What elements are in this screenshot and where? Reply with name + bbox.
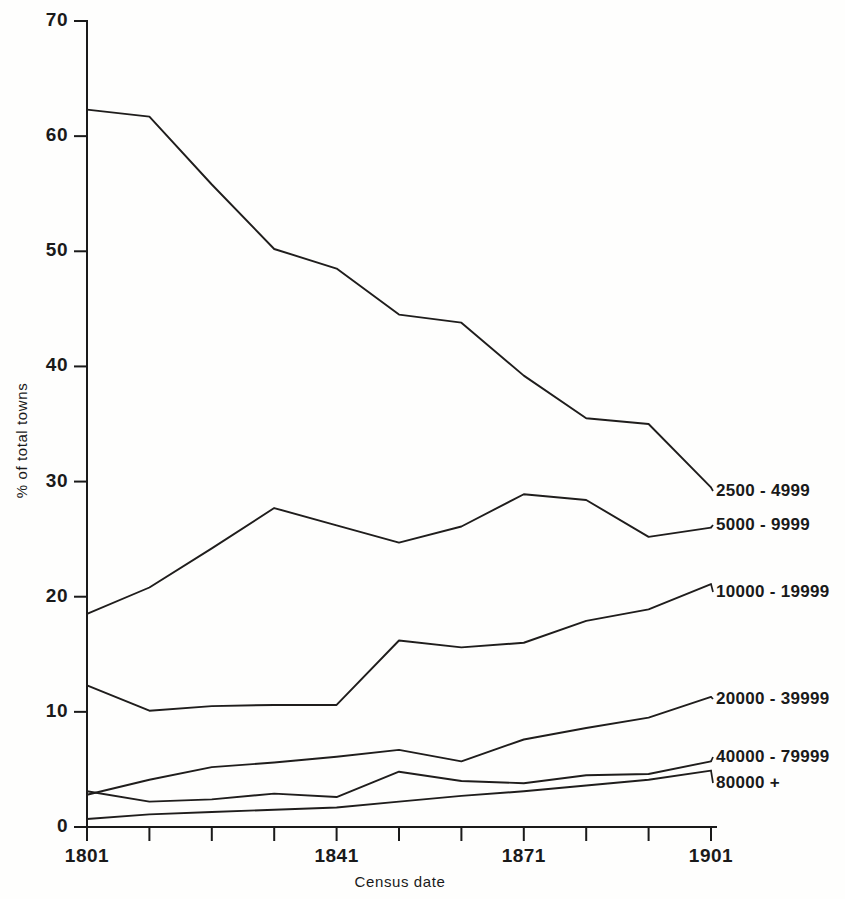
series-label: 80000 + <box>716 773 780 793</box>
y-axis-tick-label: 50 <box>22 239 68 261</box>
x-axis-tick-label: 1801 <box>42 845 132 867</box>
y-axis-tick-label: 60 <box>22 124 68 146</box>
series-label-leader <box>711 697 713 699</box>
series-line-4 <box>87 761 711 801</box>
series-label-leader <box>711 757 713 761</box>
series-label-leader <box>711 487 713 491</box>
x-axis-tick-label: 1901 <box>666 845 756 867</box>
tick-marks-group <box>74 21 711 841</box>
series-label-leader <box>711 525 713 528</box>
x-axis-tick-label: 1871 <box>479 845 569 867</box>
series-line-2 <box>87 584 711 711</box>
series-label-leader <box>711 771 713 783</box>
series-line-3 <box>87 697 711 795</box>
y-axis-tick-label: 70 <box>22 9 68 31</box>
line-chart-figure: 706050403020100 1801184118711901 2500 - … <box>0 0 845 899</box>
data-series-group <box>87 110 711 819</box>
series-label: 20000 - 39999 <box>716 689 830 709</box>
series-line-0 <box>87 110 711 488</box>
series-label-leader <box>711 584 713 592</box>
series-label: 40000 - 79999 <box>716 747 830 767</box>
series-label-leaders-group <box>711 487 713 783</box>
series-line-5 <box>87 771 711 819</box>
series-label: 2500 - 4999 <box>716 481 810 501</box>
series-label: 5000 - 9999 <box>716 515 810 535</box>
y-axis-tick-label: 0 <box>22 815 68 837</box>
x-axis-title: Census date <box>300 873 500 890</box>
axis-group <box>87 21 716 827</box>
x-axis-tick-label: 1841 <box>292 845 382 867</box>
y-axis-tick-label: 40 <box>22 354 68 376</box>
series-line-1 <box>87 494 711 614</box>
series-label: 10000 - 19999 <box>716 582 830 602</box>
y-axis-tick-label: 20 <box>22 585 68 607</box>
y-axis-title: % of total towns <box>13 376 30 506</box>
y-axis-tick-label: 10 <box>22 700 68 722</box>
